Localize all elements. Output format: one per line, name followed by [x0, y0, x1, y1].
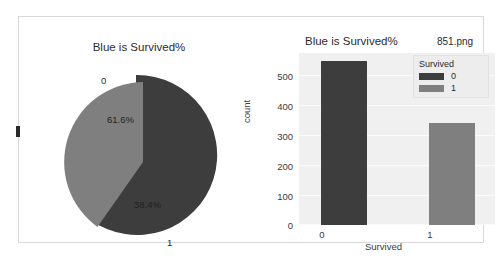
chart-legend: Survived 0 1	[413, 55, 489, 98]
bar-chart-panel: Blue is Survived% 851.png count 0 100 20…	[247, 33, 503, 259]
text-caret-artifact	[16, 126, 20, 137]
pie-chart-title: Blue is Survived%	[39, 41, 239, 53]
legend-title: Survived	[419, 59, 484, 69]
pie-label-0: 0	[101, 75, 106, 86]
bar-chart-title: Blue is Survived%	[305, 35, 398, 47]
pie-label-1: 1	[167, 237, 172, 248]
pie-chart-plot: 61.6% 38.4% 0 1	[39, 59, 239, 249]
legend-label-1: 1	[451, 83, 456, 93]
y-tick-500: 500	[259, 71, 293, 82]
bar-chart-header: Blue is Survived% 851.png	[247, 33, 503, 51]
y-axis-title: count	[241, 100, 252, 123]
y-tick-100: 100	[259, 191, 293, 202]
x-axis-title: Survived	[365, 241, 402, 252]
x-tick-1: 1	[415, 229, 445, 240]
y-tick-300: 300	[259, 131, 293, 142]
pie-slice-0-percent: 61.6%	[107, 114, 134, 125]
legend-label-0: 0	[451, 71, 456, 81]
pie-chart-panel: Blue is Survived% 61.6% 38.4% 0 1	[39, 35, 239, 255]
legend-swatch-1	[419, 85, 444, 92]
legend-item-0: 0	[419, 71, 484, 81]
y-tick-200: 200	[259, 161, 293, 172]
figure-frame: Blue is Survived% 61.6% 38.4% 0 1 Blue i…	[18, 16, 484, 243]
x-tick-0: 0	[307, 229, 337, 240]
bar-survived-1	[429, 123, 475, 225]
pie-slice-1-percent: 38.4%	[134, 199, 161, 210]
y-tick-0: 0	[259, 220, 293, 231]
file-name-label: 851.png	[437, 36, 473, 47]
pie-svg	[39, 59, 239, 249]
y-tick-400: 400	[259, 101, 293, 112]
bar-survived-0	[321, 61, 367, 225]
legend-item-1: 1	[419, 83, 484, 93]
legend-swatch-0	[419, 73, 444, 80]
